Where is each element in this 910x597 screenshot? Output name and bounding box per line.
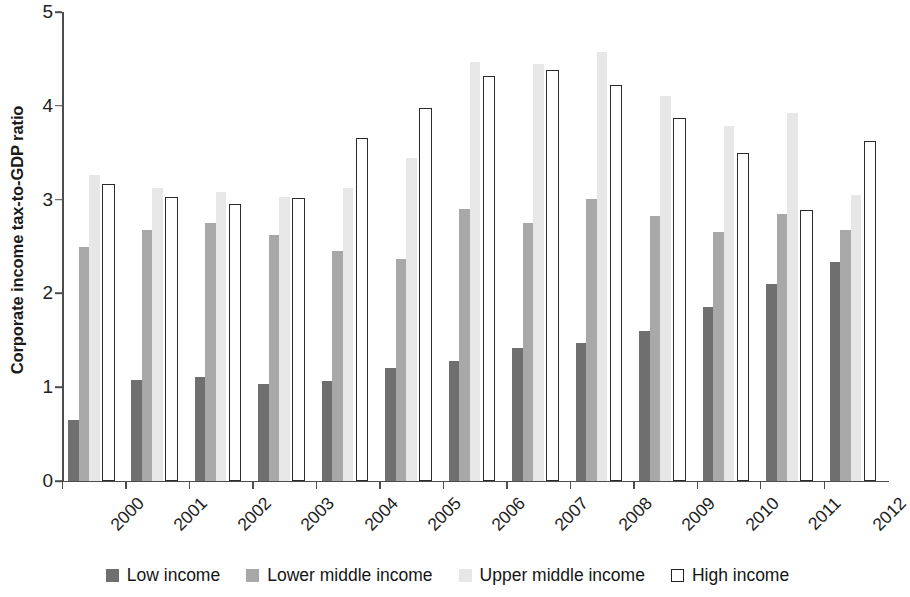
bar [205,223,216,481]
x-tick-mark [570,481,571,489]
bar [840,230,851,481]
y-tick-mark [55,11,63,13]
bar [777,214,788,481]
x-tick-mark [379,481,380,489]
legend-entry[interactable]: Upper middle income [459,565,645,586]
x-tick-label: 2004 [360,493,402,535]
bar [512,348,523,481]
x-tick-label: 2000 [106,493,148,535]
bar [449,361,460,481]
bar-group [189,12,252,481]
legend-swatch-icon [459,569,472,582]
bar-group [824,12,887,481]
x-tick-label: 2008 [614,493,656,535]
bar [292,198,305,481]
x-tick-label: 2006 [487,493,529,535]
bar [165,197,178,481]
bar [713,232,724,481]
bar [660,96,671,481]
y-axis-title: Corporate income tax-to-GDP ratio [4,0,30,480]
bar [483,76,496,481]
plot-area: 012345 200020012002200320042005200620072… [62,12,887,481]
x-tick-mark [252,481,253,489]
y-tick-label: 3 [42,189,53,211]
bar [459,209,470,481]
y-tick-label: 1 [42,376,53,398]
bar-group [443,12,506,481]
bar [470,62,481,481]
bar [102,184,115,481]
bar [131,380,142,481]
legend-label: Upper middle income [480,565,645,586]
x-tick-mark [125,481,126,489]
bar [396,259,407,481]
bar [89,175,100,481]
y-tick-mark [55,199,63,201]
bar [597,52,608,481]
bar [766,284,777,481]
legend-label: Low income [127,565,220,586]
y-tick-label: 2 [42,282,53,304]
bar [800,210,813,481]
x-tick-label: 2010 [741,493,783,535]
bar-group [570,12,633,481]
bar [639,331,650,481]
bar [703,307,714,481]
legend-entry[interactable]: Lower middle income [246,565,432,586]
x-tick-mark [62,481,63,489]
bar [673,118,686,481]
bar [586,199,597,481]
bar-group [125,12,188,481]
bar [406,158,417,481]
y-tick-mark [55,386,63,388]
bar [343,188,354,481]
bar [216,192,227,481]
bar [787,113,798,481]
bar [356,138,369,481]
x-tick-label: 2009 [678,493,720,535]
x-tick-mark [316,481,317,489]
bar [737,153,750,481]
bar-group [316,12,379,481]
x-tick-mark [760,481,761,489]
legend-entry[interactable]: Low income [106,565,220,586]
x-tick-mark [633,481,634,489]
bar [322,381,333,481]
legend-label: Lower middle income [267,565,432,586]
x-tick-label: 2002 [233,493,275,535]
legend-swatch-icon [246,569,259,582]
x-tick-label: 2003 [297,493,339,535]
y-tick-mark [55,293,63,295]
bar [142,230,153,481]
chart-legend: Low incomeLower middle incomeUpper middl… [0,560,895,590]
bar [830,262,841,481]
x-tick-mark [697,481,698,489]
legend-label: High income [692,565,789,586]
bar [195,377,206,481]
bar [152,188,163,481]
x-tick-mark [506,481,507,489]
bar [79,247,90,482]
bar-group [697,12,760,481]
bar [229,204,242,481]
y-tick-mark [55,105,63,107]
y-tick-label: 5 [42,1,53,23]
bar [546,70,559,481]
bar [523,223,534,481]
x-tick-mark [824,481,825,489]
x-tick-mark [443,481,444,489]
bar [533,64,544,481]
x-tick-label: 2005 [424,493,466,535]
bar [724,126,735,481]
bar-group [379,12,442,481]
bar-group [760,12,823,481]
bar [419,108,432,481]
bar-group [62,12,125,481]
legend-entry[interactable]: High income [671,565,789,586]
x-tick-label: 2007 [551,493,593,535]
y-tick-label: 0 [42,470,53,492]
bar-group [633,12,696,481]
bar [332,251,343,481]
x-tick-mark [189,481,190,489]
